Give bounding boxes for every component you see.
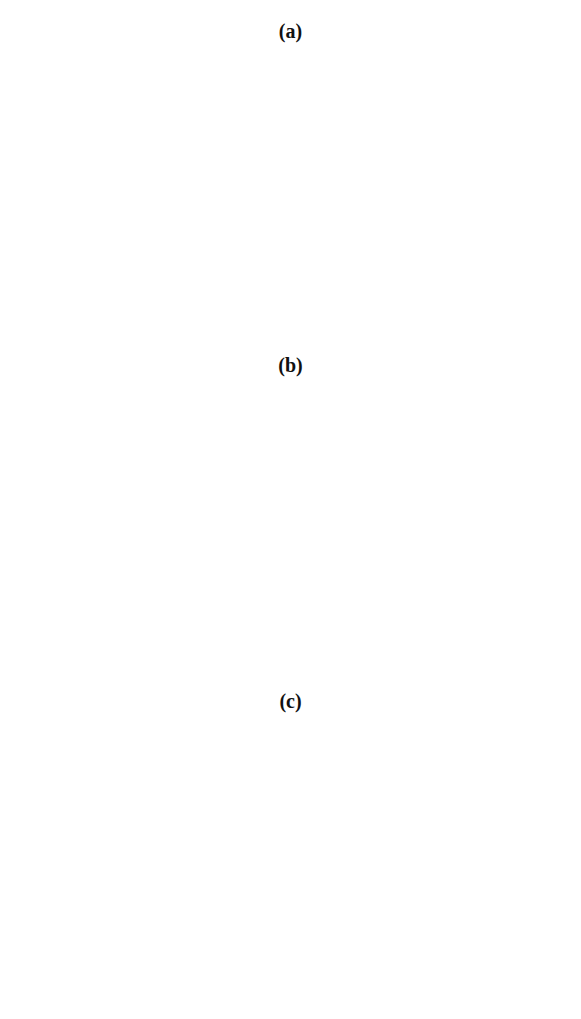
chart-b <box>0 340 581 670</box>
panel-c: (c) <box>0 670 581 1019</box>
panel-b: (b) <box>0 340 581 670</box>
panel-a: (a) <box>0 0 581 340</box>
chart-c <box>0 670 581 1019</box>
chart-a <box>0 0 581 340</box>
